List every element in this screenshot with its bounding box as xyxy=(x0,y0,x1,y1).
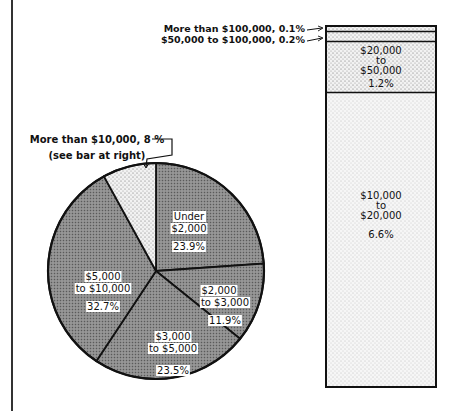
annotation-line2: (see bar at right) xyxy=(49,150,146,161)
bar-segment-more-than-100000 xyxy=(327,27,435,31)
pie-slice-label: to $10,000 xyxy=(76,283,131,294)
bar-label: $20,000 xyxy=(360,210,401,221)
bar-segment-50000-100000 xyxy=(327,32,435,41)
pie-slice-label: 23.5% xyxy=(157,365,189,376)
bar-label: $50,000 xyxy=(360,65,401,76)
pie-slice-label: $5,000 xyxy=(86,271,121,282)
pie-slice xyxy=(156,163,264,271)
stacked-bar: $20,000 to $50,000 1.2% $10,000 to $20,0… xyxy=(326,26,436,387)
pie-slice-label: 32.7% xyxy=(87,301,119,312)
bar-callouts: More than $100,000, 0.1% $50,000 to $100… xyxy=(161,23,323,45)
pie-slice-label: $2,000 xyxy=(202,285,237,296)
pie-slice-label: $3,000 xyxy=(156,331,191,342)
callout-50000-100000: $50,000 to $100,000, 0.2% xyxy=(161,34,306,45)
pie-slice-label: to $3,000 xyxy=(201,297,249,308)
callout-more-than-100000: More than $100,000, 0.1% xyxy=(164,23,306,34)
annotation-line1: More than $10,000, 8 % xyxy=(30,134,165,145)
bar-value: 6.6% xyxy=(368,229,393,240)
pie-chart: Under$2,00023.9%$2,000to $3,00011.9%$3,0… xyxy=(48,163,264,379)
pie-slice-label: $2,000 xyxy=(172,223,207,234)
pie-slice-label: 23.9% xyxy=(173,241,205,252)
pie-slice-label: to $5,000 xyxy=(149,343,197,354)
bar-value: 1.2% xyxy=(368,78,393,89)
chart-canvas: Under$2,00023.9%$2,000to $3,00011.9%$3,0… xyxy=(0,0,463,411)
pie-slice-label: 11.9% xyxy=(209,315,241,326)
pie-slice-label: Under xyxy=(174,211,205,222)
